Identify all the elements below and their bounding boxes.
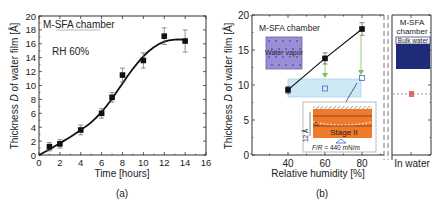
y-tick-label: 0 [243,150,249,161]
y-tick-label: 15 [238,45,250,56]
y-tick-label: 4 [31,122,36,133]
vapor-dot [282,56,284,58]
panel-b-chamber-label: M-SFA chamber [259,23,320,33]
upper-surface-hatch [313,106,372,109]
in-water-label: In water [394,158,430,169]
green-arrowhead-80 [358,70,364,75]
x-tick-label: 6 [99,157,104,168]
x-tick-label: 8 [120,157,125,168]
panel-b-y-label-pre: Thickness [223,102,234,150]
panel-b-caption: (b) [316,188,328,199]
data-point [109,95,115,101]
vapor-dot [299,64,301,66]
data-point [78,127,84,133]
y-tick-label: 16 [25,38,36,49]
vapor-dot [292,64,294,66]
x-tick-label: 16 [201,157,212,168]
in-water-point [409,91,414,97]
x-tick-label: 2 [57,157,62,168]
panel-a-y-label-post: of water film [Å] [8,22,20,94]
data-point [99,111,105,117]
figure: 02468101214161820 0246810121416 M-SFA ch… [0,0,438,209]
x-tick-label: 0 [36,157,41,168]
data-point [359,26,365,32]
force-label-var: F/R [312,144,323,151]
data-point [47,144,53,150]
vapor-dot [289,40,291,42]
data-point [57,141,63,147]
panel-a-y-label-pre: Thickness [9,102,20,150]
water-vapor-label: Water vapor [265,49,304,57]
panel-b-y-label-var: D [223,94,234,101]
vapor-dot [268,40,270,42]
right-chamber-label-1: M-SFA [400,18,425,27]
panel-b-y-label: Thickness D of water film [Å] [222,22,234,149]
y-tick-label: 6 [31,108,36,119]
data-point [120,72,126,78]
vapor-dot [278,64,280,66]
bulk-water-box [396,44,430,69]
data-point [141,58,147,64]
x-tick-label: 4 [78,157,83,168]
vapor-dot [282,40,284,42]
y-tick-label: 18 [25,24,36,35]
y-tick-label: 10 [238,80,250,91]
data-point [182,38,188,44]
panel-b-x-label: Relative humidity [%] [271,168,365,179]
panel-b-y-label-post: of water film [Å] [222,22,234,94]
right-chamber-label-2: chamber [396,27,427,36]
vapor-dot [268,56,270,58]
bulk-water-label: Bulk water [398,37,429,44]
panel-a-caption: (a) [116,188,128,199]
y-tick-label: 14 [25,52,36,63]
x-tick-label: 14 [180,157,191,168]
vapor-dot [296,56,298,58]
y-tick-label: 0 [31,150,36,161]
panel-a-y-label: Thickness D of water film [Å] [8,22,20,149]
y-tick-label: 5 [243,115,249,126]
y-tick-label: 20 [25,11,36,22]
green-arrowhead-60 [322,73,328,78]
stage-label: Stage II [330,128,358,137]
panel-a-rh-label: RH 60% [52,46,89,57]
y-tick-label: 8 [31,94,36,105]
data-point [322,56,328,62]
vapor-dot [289,56,291,58]
data-point [161,33,167,39]
vapor-dot [271,64,273,66]
panel-a-frame [39,16,206,155]
panel-a-x-label: Time [hours] [94,168,149,179]
panel-b: 05101520 406080 M-SFA chamber Water vapo… [222,10,431,200]
panel-a: 02468101214161820 0246810121416 M-SFA ch… [8,11,211,200]
data-point [285,87,291,93]
x-tick-label: 12 [159,157,170,168]
d-label: D [313,121,319,126]
y-tick-label: 12 [25,66,36,77]
force-label: F/R = 440 mN/m [312,144,360,151]
panel-a-y-ticks: 02468101214161820 [25,11,206,161]
y-tick-label: 10 [25,80,36,91]
y-tick-label: 2 [31,136,36,147]
y-tick-label: 20 [238,10,250,21]
force-label-val: = 440 mN/m [322,144,359,151]
vapor-dot [296,40,298,42]
thickness-label: 12 Å [301,128,309,142]
stage-ii-inset: 12 Å D Stage II F/R = 440 mN/m [301,102,376,152]
vapor-dot [285,64,287,66]
vapor-dot [275,56,277,58]
x-tick-label: 10 [138,157,149,168]
panel-a-y-label-var: D [9,94,20,101]
vapor-dot [275,40,277,42]
panel-a-chamber-label: M-SFA chamber [43,19,115,30]
